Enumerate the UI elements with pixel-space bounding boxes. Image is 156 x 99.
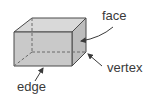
vertex-arrow-icon	[88, 54, 102, 66]
face-label: face	[102, 9, 127, 22]
vertex-label: vertex	[107, 61, 142, 74]
front-face	[14, 32, 72, 66]
edge-label: edge	[17, 80, 46, 93]
